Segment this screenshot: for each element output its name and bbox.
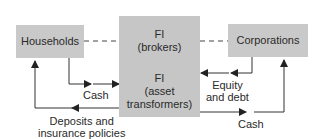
- fi-asset-transformers-section: FI (asset transformers): [119, 66, 200, 117]
- fi-brokers-subtitle: (brokers): [137, 41, 181, 54]
- fi-node: FI (brokers) FI (asset transformers): [119, 16, 200, 117]
- fi-asset-subtitle-1: (asset: [127, 85, 192, 98]
- corporations-node: Corporations: [228, 24, 308, 57]
- deposits-label: Deposits and insurance policies: [38, 115, 125, 139]
- corporations-label: Corporations: [237, 34, 300, 47]
- fi-asset-title: FI: [127, 72, 192, 85]
- equity-line: Equity: [206, 79, 249, 91]
- deposits-line: Deposits and: [38, 115, 125, 127]
- insurance-line: insurance policies: [38, 127, 125, 139]
- households-node: Households: [16, 25, 84, 58]
- equity-debt-label: Equity and debt: [206, 79, 249, 103]
- debt-line: and debt: [206, 91, 249, 103]
- fi-brokers-title: FI: [137, 28, 181, 41]
- households-label: Households: [21, 35, 79, 48]
- cash-left-label: Cash: [83, 89, 109, 101]
- fi-asset-subtitle-2: transformers): [127, 98, 192, 111]
- fi-brokers-section: FI (brokers): [119, 16, 200, 66]
- cash-right-label: Cash: [238, 118, 264, 130]
